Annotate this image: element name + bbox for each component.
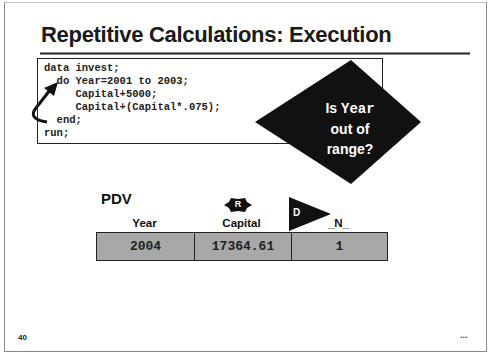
pdv-cell-capital: 17364.61 xyxy=(194,233,291,260)
pdv-header-capital: Capital xyxy=(193,217,290,229)
pdv-header-year: Year xyxy=(96,217,193,229)
pdv-cell-n: 1 xyxy=(291,233,387,260)
pdv-table: 2004 17364.61 1 xyxy=(96,232,388,261)
decision-text-line2: out of xyxy=(300,119,400,139)
pdv-cell-year: 2004 xyxy=(97,233,194,260)
retain-badge-label: R xyxy=(224,199,252,209)
code-line-1: data invest; xyxy=(44,62,120,75)
pdv-label: PDV xyxy=(101,190,132,207)
code-line-4: Capital+(Capital*.075); xyxy=(44,101,220,114)
more-indicator: ... xyxy=(460,330,468,340)
decision-text-line3: range? xyxy=(300,139,400,159)
pdv-header-n: _N_ xyxy=(290,217,387,229)
code-line-6: run; xyxy=(44,127,69,140)
decision-text-line1: Is xyxy=(325,100,341,116)
decision-var: Year xyxy=(341,101,375,117)
loop-back-arrow-icon xyxy=(28,80,68,126)
slide-title: Repetitive Calculations: Execution xyxy=(41,22,391,48)
page-number: 40 xyxy=(18,333,27,342)
decision-text: Is Year out of range? xyxy=(300,98,400,159)
title-underline xyxy=(40,52,470,55)
